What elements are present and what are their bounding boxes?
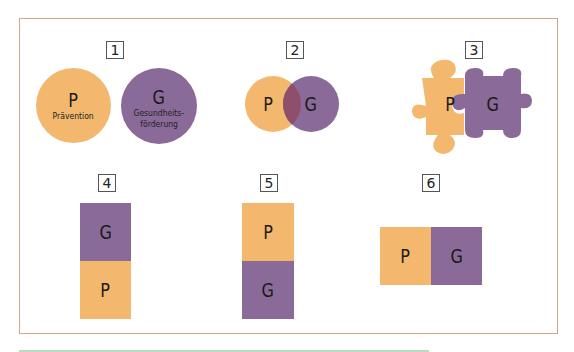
prevention-label: Prävention [53,111,94,122]
panel-number-5: 5 [260,174,278,192]
health-promotion-letter: G [153,86,165,108]
prevention-circle: P Prävention [36,68,111,143]
panel-number-1: 1 [106,41,124,59]
panel5-g-block: G [242,261,294,319]
puzzle-p-letter: P [445,93,455,115]
panel5-g-letter: G [262,279,274,301]
venn-g-letter: G [305,93,317,115]
panel4-p-block: P [80,261,131,319]
panel6-p-block: P [380,227,431,285]
puzzle-diagram [400,52,550,167]
puzzle-g-letter: G [487,93,499,115]
panel6-p-letter: P [401,245,411,267]
panel-number-6: 6 [422,174,440,192]
panel6-g-block: G [431,227,482,285]
panel4-g-block: G [80,203,131,261]
panel4-g-letter: G [99,221,111,243]
panel-number-2: 2 [286,41,304,59]
panel6-g-letter: G [450,245,462,267]
panel5-p-block: P [242,203,294,261]
venn-overlap-diagram [245,75,345,137]
health-promotion-circle: G Gesundheits- förderung [121,68,197,144]
prevention-letter: P [69,89,79,111]
panel-number-4: 4 [98,174,116,192]
health-promotion-label-1: Gesundheits- [134,108,185,119]
venn-p-letter: P [263,93,273,115]
panel5-p-letter: P [263,221,273,243]
panel4-p-letter: P [101,279,111,301]
health-promotion-label-2: förderung [140,119,178,130]
